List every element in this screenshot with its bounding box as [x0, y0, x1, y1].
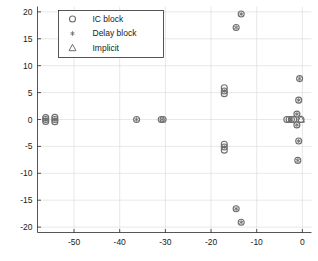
x-tick-label: -10 — [251, 237, 264, 247]
y-tick-label: -20 — [20, 222, 33, 232]
marker-asterisk — [295, 123, 299, 128]
x-tick-label: 0 — [300, 237, 305, 247]
plot-legend[interactable]: IC blockDelay blockImplicit — [59, 11, 164, 58]
x-tick-label: -20 — [205, 237, 218, 247]
x-tick-label: -50 — [68, 237, 81, 247]
legend-label: Implicit — [93, 43, 120, 53]
marker-asterisk — [239, 220, 243, 225]
scatter-plot-figure: -50-40-30-20-100 -20-15-10-505101520 IC … — [0, 0, 318, 261]
marker-asterisk — [234, 25, 238, 30]
y-tick-label: 20 — [23, 7, 33, 17]
x-axis-tick-labels: -50-40-30-20-100 — [68, 237, 305, 247]
y-tick-label: -5 — [25, 141, 33, 151]
legend-label: Delay block — [93, 28, 138, 38]
x-tick-label: -40 — [114, 237, 127, 247]
y-tick-label: -15 — [20, 195, 33, 205]
y-tick-label: 0 — [28, 115, 33, 125]
marker-asterisk — [234, 207, 238, 212]
y-tick-label: 15 — [23, 34, 33, 44]
y-axis-tick-labels: -20-15-10-505101520 — [20, 7, 33, 232]
y-tick-label: 5 — [28, 88, 33, 98]
marker-asterisk — [239, 12, 243, 17]
marker-asterisk — [296, 158, 300, 163]
legend-label: IC block — [93, 14, 124, 24]
y-tick-label: 10 — [23, 61, 33, 71]
y-tick-label: -10 — [20, 168, 33, 178]
x-tick-label: -30 — [159, 237, 172, 247]
marker-asterisk — [297, 139, 301, 144]
marker-asterisk — [297, 98, 301, 103]
marker-asterisk — [298, 76, 302, 81]
marker-asterisk — [295, 112, 299, 117]
